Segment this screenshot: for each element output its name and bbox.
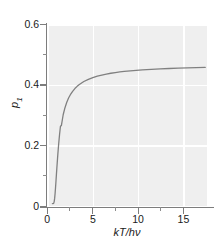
y-tick-major	[40, 206, 47, 207]
y-axis-title: p1	[8, 85, 23, 121]
x-tick-minor	[115, 207, 116, 211]
x-tick-minor	[160, 207, 161, 211]
y-axis-title-main: p	[8, 102, 20, 108]
x-axis-spine	[40, 207, 214, 208]
y-tick-label: 0	[5, 201, 39, 212]
y-tick-major	[40, 24, 47, 25]
x-axis-title: kT/hν	[47, 226, 207, 238]
chart-figure: 0.6 0.4 0.2 0 0 5 10 15 p1 kT/hν	[0, 0, 219, 243]
x-tick-label: 15	[168, 214, 198, 225]
data-curve-p1	[47, 24, 207, 207]
y-tick-minor	[43, 175, 47, 176]
x-tick-label: 10	[123, 214, 153, 225]
y-tick-major	[40, 145, 47, 146]
x-tick-minor	[69, 207, 70, 211]
plot-panel	[47, 24, 207, 207]
y-tick-label: 0.6	[5, 19, 39, 30]
y-tick-label: 0.2	[5, 140, 39, 151]
y-tick-minor	[43, 115, 47, 116]
x-tick-label: 5	[78, 214, 108, 225]
y-axis-title-subscript: 1	[15, 97, 24, 101]
y-tick-major	[40, 84, 47, 85]
y-tick-minor	[43, 54, 47, 55]
x-tick-label: 0	[32, 214, 62, 225]
